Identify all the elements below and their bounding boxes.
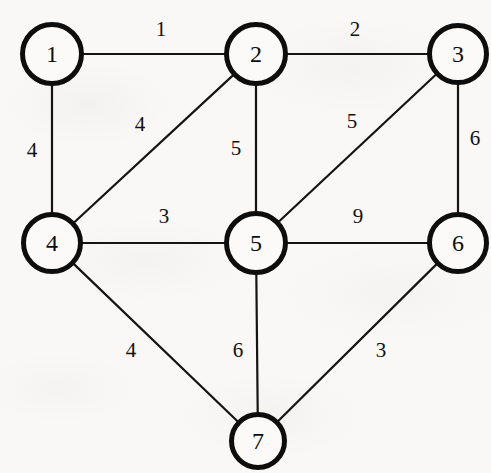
graph-node-6[interactable]: 6 xyxy=(427,212,489,274)
graph-node-3[interactable]: 3 xyxy=(427,23,489,85)
edge-weight-label-1-2: 1 xyxy=(156,19,167,40)
graph-node-label-2: 2 xyxy=(250,42,262,66)
graph-edge-5-7 xyxy=(256,273,257,414)
graph-edge-2-4 xyxy=(73,74,234,223)
graph-node-label-4: 4 xyxy=(46,231,58,255)
edge-weight-label-4-7: 4 xyxy=(126,340,137,361)
graph-node-label-7: 7 xyxy=(252,429,264,453)
graph-edge-3-5 xyxy=(278,74,437,223)
graph-node-label-1: 1 xyxy=(46,42,58,66)
graph-node-2[interactable]: 2 xyxy=(224,22,288,86)
graph-node-4[interactable]: 4 xyxy=(21,212,83,274)
edge-weight-label-1-4: 4 xyxy=(27,140,38,161)
edge-weight-label-6-7: 3 xyxy=(376,340,387,361)
graph-edge-6-7 xyxy=(277,263,437,422)
graph-edge-4-7 xyxy=(73,263,239,422)
edge-weight-label-2-5: 5 xyxy=(231,138,242,159)
graph-node-7[interactable]: 7 xyxy=(229,412,287,470)
graph-node-label-3: 3 xyxy=(452,42,464,66)
graph-node-label-5: 5 xyxy=(250,231,262,255)
graph-node-1[interactable]: 1 xyxy=(20,22,84,86)
edge-weight-label-2-3: 2 xyxy=(350,19,361,40)
edge-weight-label-4-5: 3 xyxy=(159,206,170,227)
edge-weight-label-5-7: 6 xyxy=(233,340,244,361)
graph-node-5[interactable]: 5 xyxy=(224,211,288,275)
edge-weight-label-3-6: 6 xyxy=(470,128,481,149)
edge-weight-label-2-4: 4 xyxy=(135,114,146,135)
graph-diagram-canvas: 1234567 124455639463 xyxy=(0,0,491,473)
edge-weight-label-5-6: 9 xyxy=(353,206,364,227)
edge-weight-label-3-5: 5 xyxy=(347,111,358,132)
graph-node-label-6: 6 xyxy=(452,231,464,255)
